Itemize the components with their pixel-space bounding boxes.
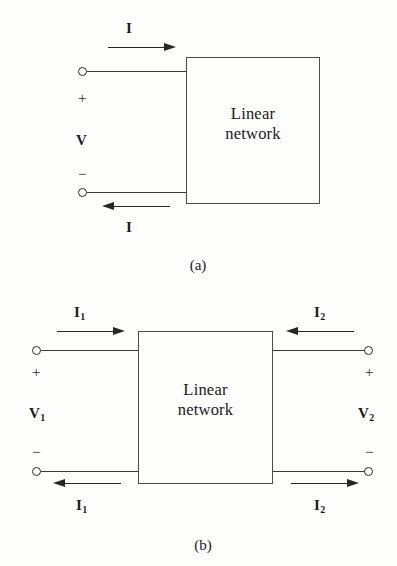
minus-sign-b-left: − — [32, 445, 40, 460]
voltage-label-b-right: V2 — [358, 406, 374, 423]
caption-a: (a) — [168, 258, 228, 273]
current-label-sub: 2 — [320, 504, 325, 515]
current-label-b-left-bottom: I1 — [76, 498, 87, 515]
arrow-shaft — [291, 483, 348, 485]
wire-b-right-top — [272, 350, 365, 351]
current-label-text: I — [314, 304, 320, 320]
terminal-b-left-top — [32, 346, 41, 355]
current-label-b-right-bottom: I2 — [314, 498, 325, 515]
arrow-head — [53, 479, 65, 487]
terminal-b-right-bottom — [364, 467, 373, 476]
current-label-text: I — [74, 304, 80, 320]
current-label-sub: 1 — [80, 311, 85, 322]
current-label-a-bottom: I — [126, 220, 132, 235]
arrow-shaft — [57, 331, 114, 333]
voltage-label-sub: 2 — [369, 412, 374, 423]
arrow-head — [164, 43, 176, 51]
current-label-b-left-top: I1 — [74, 305, 85, 322]
current-arrow-b-left-top — [57, 326, 125, 336]
terminal-a-top — [78, 67, 87, 76]
plus-sign-b-right: + — [365, 365, 373, 380]
current-arrow-b-right-top — [286, 326, 354, 336]
arrow-shaft — [64, 483, 121, 485]
minus-sign-a: − — [78, 167, 86, 182]
arrow-head — [286, 327, 298, 335]
arrow-head — [102, 202, 114, 210]
arrow-head — [347, 479, 359, 487]
terminal-b-left-bottom — [32, 467, 41, 476]
linear-network-box-a: Linear network — [186, 57, 320, 204]
terminal-a-bottom — [78, 188, 87, 197]
arrow-head — [113, 327, 125, 335]
current-arrow-b-right-bottom — [291, 478, 359, 488]
current-arrow-a-bottom — [102, 201, 170, 211]
wire-b-right-bottom — [272, 471, 365, 472]
terminal-b-right-top — [364, 346, 373, 355]
wire-a-bottom — [87, 192, 187, 193]
current-label-text: I — [76, 497, 82, 513]
wire-b-left-top — [41, 350, 139, 351]
wire-b-left-bottom — [41, 471, 139, 472]
plus-sign-a: + — [78, 91, 86, 106]
current-arrow-b-left-bottom — [53, 478, 121, 488]
arrow-shaft — [297, 331, 354, 333]
circuit-figure: Linear network I I + V − (a) — [0, 0, 397, 566]
wire-a-top — [87, 71, 187, 72]
current-label-text: I — [314, 497, 320, 513]
linear-network-box-b: Linear network — [138, 331, 273, 484]
caption-b: (b) — [173, 538, 233, 553]
voltage-label-text: V — [358, 405, 369, 421]
current-label-b-right-top: I2 — [314, 305, 325, 322]
current-label-a-top: I — [126, 21, 132, 36]
voltage-label-sub: 1 — [40, 412, 45, 423]
voltage-label-b-left: V1 — [29, 406, 45, 423]
voltage-label-text: V — [29, 405, 40, 421]
linear-network-box-a-label: Linear network — [187, 104, 319, 144]
current-arrow-a-top — [108, 42, 176, 52]
arrow-shaft — [108, 47, 165, 49]
linear-network-box-b-label: Linear network — [139, 380, 272, 420]
minus-sign-b-right: − — [365, 445, 373, 460]
voltage-label-a: V — [76, 133, 87, 148]
arrow-shaft — [113, 206, 170, 208]
current-label-sub: 2 — [320, 311, 325, 322]
current-label-sub: 1 — [82, 504, 87, 515]
plus-sign-b-left: + — [32, 365, 40, 380]
